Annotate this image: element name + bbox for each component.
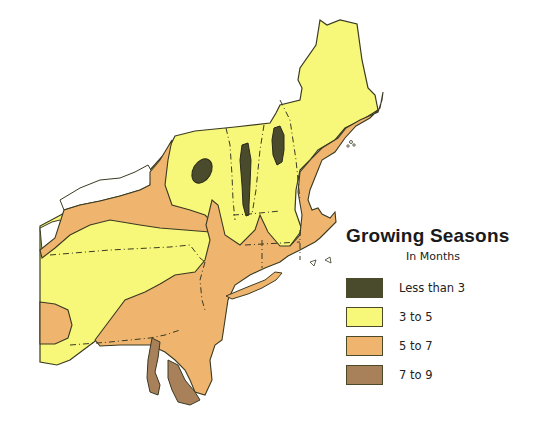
legend-swatch [346,278,383,298]
legend-label: Less than 3 [399,281,465,295]
legend-title: Growing Seasons [346,225,546,247]
region-7-to-9-west-shore [147,338,160,395]
legend-swatch [346,365,383,385]
legend-item-less-than-3: Less than 3 [346,273,546,302]
legend-item-5-to-7: 5 to 7 [346,331,546,360]
legend-label: 5 to 7 [399,339,433,353]
legend-item-7-to-9: 7 to 9 [346,360,546,389]
legend-swatch [346,307,383,327]
legend-subtitle: In Months [406,250,546,263]
legend-label: 3 to 5 [399,310,433,324]
legend-label: 7 to 9 [399,368,433,382]
legend-item-3-to-5: 3 to 5 [346,302,546,331]
legend-swatch [346,336,383,356]
legend: Growing Seasons In Months Less than 3 3 … [346,225,546,389]
